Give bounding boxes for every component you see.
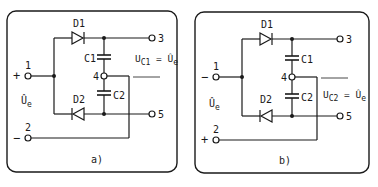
capacitor-c1-icon	[285, 56, 299, 60]
label-terminal-4: 4	[93, 71, 99, 82]
label-input-voltage: Ûe	[209, 97, 220, 112]
terminal-4	[289, 74, 295, 80]
label-c1: C1	[301, 54, 313, 65]
terminal-3	[149, 35, 155, 41]
label-c2: C2	[113, 90, 125, 101]
label-c1: C1	[84, 53, 96, 64]
label-terminal-3: 3	[158, 33, 164, 44]
label-d2: D2	[260, 94, 272, 105]
label-output-voltage: UC2 = Ûe	[323, 89, 366, 103]
label-input-voltage: Ûe	[21, 94, 32, 109]
label-polarity-minus: −	[13, 131, 20, 145]
junction-dot	[290, 114, 294, 118]
label-polarity-minus: −	[201, 70, 208, 84]
capacitor-c2-icon	[97, 91, 111, 95]
diode-d1-icon	[72, 32, 84, 44]
terminal-4	[101, 73, 107, 79]
terminal-3	[337, 36, 343, 42]
junction-dot	[290, 37, 294, 41]
terminal-1	[25, 73, 31, 79]
junction-dot	[102, 112, 106, 116]
diode-d2-icon	[260, 110, 272, 122]
capacitor-c1-icon	[97, 55, 111, 59]
caption-b: b)	[279, 155, 291, 166]
label-terminal-2: 2	[213, 124, 219, 135]
terminal-5	[149, 111, 155, 117]
diode-d1-icon	[260, 33, 272, 45]
label-polarity-plus: +	[13, 69, 20, 83]
label-terminal-5: 5	[158, 109, 164, 120]
panel-a	[7, 11, 177, 172]
caption-a: a)	[91, 154, 103, 165]
junction-dot	[240, 75, 244, 79]
label-terminal-5: 5	[346, 111, 352, 122]
label-d1: D1	[73, 18, 85, 29]
label-terminal-2: 2	[25, 122, 31, 133]
junction-dot	[102, 36, 106, 40]
label-d2: D2	[73, 94, 85, 105]
label-output-voltage: UC1 = Ûe	[135, 53, 178, 67]
terminal-1	[213, 74, 219, 80]
label-polarity-plus: +	[201, 133, 208, 147]
label-terminal-1: 1	[25, 60, 31, 71]
terminal-2	[25, 135, 31, 141]
capacitor-c2-icon	[285, 94, 299, 98]
terminal-5	[337, 113, 343, 119]
label-terminal-4: 4	[281, 72, 287, 83]
junction-dot	[52, 74, 56, 78]
terminal-2	[213, 137, 219, 143]
label-c2: C2	[301, 92, 313, 103]
label-terminal-3: 3	[346, 34, 352, 45]
label-d1: D1	[261, 19, 273, 30]
circuit-diagrams: D1 D2 C1 C2 1 2 3 4 5 + − Ûe UC1 = Ûe a)	[0, 0, 378, 187]
diode-d2-icon	[72, 108, 84, 120]
label-terminal-1: 1	[213, 61, 219, 72]
